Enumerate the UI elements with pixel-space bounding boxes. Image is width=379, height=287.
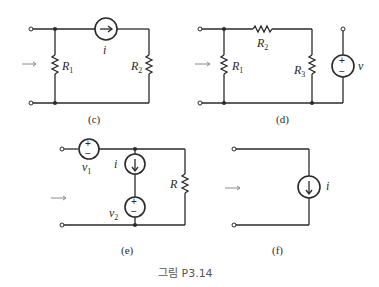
resistor-r2-d [253, 26, 272, 32]
label-f: (f) [272, 244, 283, 257]
label-r1-d: R1 [231, 59, 243, 75]
circuit-figure: i R1 R2 (c) + − R2 R1 R3 v (d) [0, 0, 379, 287]
label-v-d: v [358, 59, 364, 73]
resistor-r-e [182, 174, 188, 193]
label-v2-e: v2 [109, 206, 118, 222]
terminal-e-bottom [60, 223, 64, 227]
circuit-e: + − + − v1 i v2 R (e) [51, 138, 188, 257]
label-c: (c) [88, 113, 101, 126]
label-r2-d: R2 [256, 36, 268, 52]
label-e: (e) [121, 244, 134, 257]
svg-text:−: − [85, 148, 91, 159]
terminal-c-top [29, 27, 33, 31]
label-i-e: i [114, 157, 117, 171]
label-v1-e: v1 [82, 160, 91, 176]
resistor-r1-c [52, 55, 58, 74]
svg-text:+: + [339, 55, 345, 66]
circuit-f: i (f) [225, 147, 329, 257]
label-i-f: i [326, 179, 329, 193]
terminal-d-v [341, 27, 345, 31]
label-i-c: i [103, 43, 106, 57]
terminal-f-bottom [232, 223, 236, 227]
terminal-d-bottom [198, 101, 202, 105]
terminal-e-top [60, 147, 64, 151]
resistor-r1-d [221, 55, 227, 74]
label-r2-c: R2 [130, 59, 142, 75]
terminal-d-top [198, 27, 202, 31]
label-d: (d) [276, 113, 289, 126]
terminal-c-bottom [29, 101, 33, 105]
circuit-c: i R1 R2 (c) [22, 18, 152, 126]
figure-caption: 그림 P3.14 [158, 267, 213, 280]
circuit-d: + − R2 R1 R3 v (d) [195, 26, 364, 126]
terminal-f-top [232, 147, 236, 151]
resistor-r3-d [309, 55, 315, 74]
label-r3-d: R3 [293, 63, 305, 79]
svg-text:−: − [339, 66, 345, 77]
label-r-e: R [169, 177, 178, 191]
svg-text:−: − [131, 206, 137, 217]
resistor-r2-c [146, 55, 152, 74]
label-r1-c: R1 [61, 59, 73, 75]
